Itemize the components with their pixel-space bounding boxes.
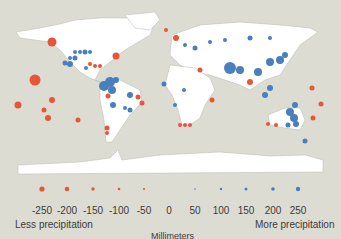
legend-tick: -150 — [83, 205, 103, 216]
legend-markers — [39, 186, 300, 191]
precipitation-change-map — [0, 0, 341, 239]
legend-tick: -50 — [137, 205, 151, 216]
unit-label: Millimeters — [151, 231, 194, 239]
legend-tick: 150 — [238, 205, 255, 216]
more-precipitation-label: More precipitation — [255, 219, 334, 230]
antarctica — [18, 150, 323, 174]
legend-tick: 200 — [265, 205, 282, 216]
legend-tick: -250 — [32, 205, 52, 216]
legend-tick: -200 — [57, 205, 77, 216]
legend-tick: 0 — [166, 205, 172, 216]
legend-tick: 250 — [290, 205, 307, 216]
legend-tick: 100 — [213, 205, 230, 216]
legend-tick: 50 — [189, 205, 200, 216]
legend-tick: -100 — [109, 205, 129, 216]
land-masses — [16, 12, 323, 174]
less-precipitation-label: Less precipitation — [15, 219, 93, 230]
